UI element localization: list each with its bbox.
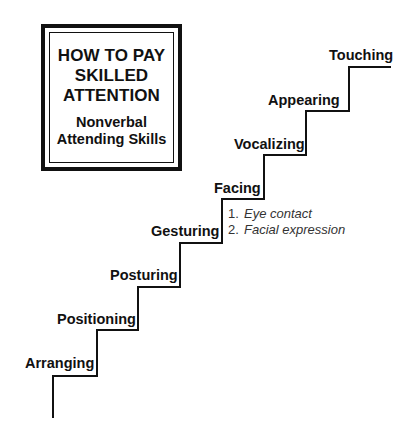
list-item-number: 2. bbox=[228, 222, 244, 238]
list-item: 2.Facial expression bbox=[228, 222, 345, 238]
list-item-number: 1. bbox=[228, 206, 244, 222]
step-label-gesturing: Gesturing bbox=[151, 223, 219, 239]
list-item-text: Facial expression bbox=[244, 222, 345, 237]
step-label-touching: Touching bbox=[329, 47, 393, 63]
step-label-facing: Facing bbox=[214, 180, 261, 196]
list-item-text: Eye contact bbox=[244, 206, 312, 221]
list-item: 1.Eye contact bbox=[228, 206, 345, 222]
step-label-appearing: Appearing bbox=[268, 92, 340, 108]
step-label-positioning: Positioning bbox=[57, 311, 136, 327]
step-label-arranging: Arranging bbox=[25, 355, 94, 371]
facing-subitems-list: 1.Eye contact 2.Facial expression bbox=[228, 206, 345, 237]
step-label-posturing: Posturing bbox=[110, 267, 178, 283]
step-label-vocalizing: Vocalizing bbox=[234, 136, 305, 152]
